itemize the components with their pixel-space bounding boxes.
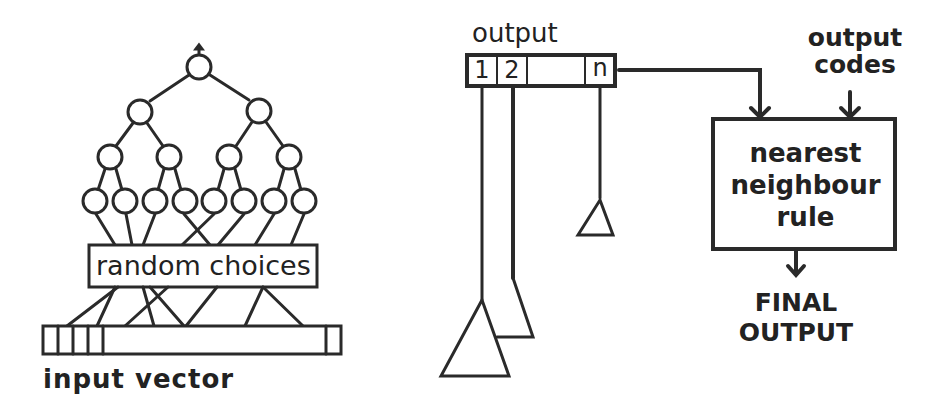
tree-node — [128, 100, 152, 124]
output-codes-line1: output — [800, 24, 910, 51]
tree-nodes — [83, 55, 316, 213]
leaf-node — [173, 189, 197, 213]
tree-node — [217, 145, 241, 169]
output-cell-n: n — [585, 54, 615, 82]
choices-to-input-edges — [67, 287, 303, 326]
leaf-node — [202, 189, 226, 213]
root-node — [187, 55, 211, 79]
leaf-node — [113, 189, 137, 213]
tree-edges — [98, 75, 301, 190]
tree-node — [247, 99, 271, 123]
final-output-arrow-icon — [788, 251, 804, 275]
codes-to-rule-arrow-icon — [841, 92, 859, 117]
input-vector-bar — [43, 326, 341, 354]
rule-line-1: nearest — [713, 137, 898, 169]
final-line-2: OUTPUT — [736, 318, 856, 348]
final-line-1: FINAL — [736, 288, 856, 318]
tree-node — [98, 145, 122, 169]
rule-line-3: rule — [713, 201, 898, 233]
final-output-label: FINAL OUTPUT — [736, 288, 856, 348]
output-stems — [482, 88, 600, 300]
leaf-node — [143, 189, 167, 213]
output-codes-label: output codes — [800, 24, 910, 78]
subtree-triangles — [441, 200, 613, 376]
subtree-2-triangle-icon — [497, 278, 533, 337]
leaf-to-choices-edges — [96, 214, 304, 245]
root-output-arrow-icon — [196, 45, 202, 54]
output-to-rule-arrow-icon — [619, 70, 769, 117]
leaf-node — [262, 189, 286, 213]
leaf-node — [292, 189, 316, 213]
tree-node — [157, 145, 181, 169]
rule-line-2: neighbour — [713, 169, 898, 201]
leaf-node — [83, 189, 107, 213]
tree-node — [277, 145, 301, 169]
leaf-node — [232, 189, 256, 213]
output-cell-1: 1 — [467, 56, 497, 84]
rule-box-text: nearest neighbour rule — [713, 137, 898, 233]
output-codes-line2: codes — [800, 51, 910, 78]
output-cell-2: 2 — [497, 56, 527, 84]
subtree-n-triangle-icon — [578, 200, 613, 235]
output-label: output — [472, 18, 558, 48]
random-choices-label: random choices — [96, 250, 311, 281]
input-vector-label: input vector — [43, 364, 234, 394]
